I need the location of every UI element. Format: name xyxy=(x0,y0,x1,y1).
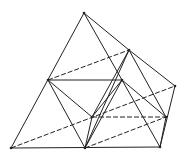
solid-edge xyxy=(122,80,166,117)
vertex-l xyxy=(47,79,50,82)
solid-edge xyxy=(85,117,92,148)
solid-edge xyxy=(85,80,122,148)
vertex-a xyxy=(128,49,131,52)
solid-edge xyxy=(129,50,166,117)
vertex-t xyxy=(83,12,86,15)
solid-edge xyxy=(84,13,129,50)
solid-edge xyxy=(129,50,175,86)
vertex-bl xyxy=(10,147,13,150)
solid-edges xyxy=(11,13,175,148)
vertex-br xyxy=(159,146,162,149)
vertex-bm xyxy=(84,147,87,150)
vertex-d xyxy=(165,116,168,119)
solid-edge xyxy=(48,80,85,148)
vertex-c xyxy=(91,116,94,119)
vertex-m xyxy=(121,79,124,82)
solid-edge xyxy=(48,80,92,117)
solid-edge xyxy=(160,117,166,147)
geometric-diagram xyxy=(0,0,187,159)
vertex-r xyxy=(174,85,177,88)
dashed-edge xyxy=(48,50,129,80)
